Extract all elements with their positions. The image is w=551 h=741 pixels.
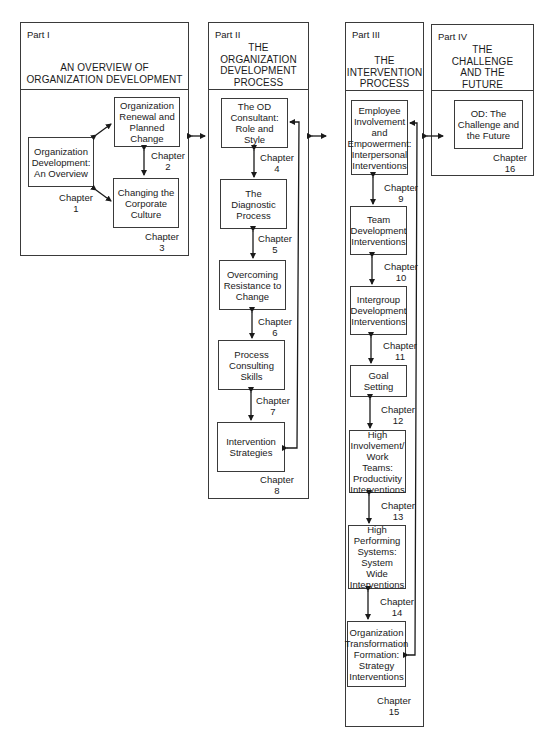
part-4-title-line: CHALLENGE: [432, 56, 533, 68]
chapter-9-label: Chapter 9: [379, 182, 423, 204]
part-4-title-line: AND THE: [432, 67, 533, 79]
chapter-16-box: OD: The Challenge and the Future: [454, 100, 523, 149]
part-1-title-line: ORGANIZATION DEVELOPMENT: [21, 74, 188, 86]
part-3-title-line: THE: [346, 55, 423, 67]
part-3-title-line: PROCESS: [346, 78, 423, 90]
part-3-title: THE INTERVENTION PROCESS: [346, 55, 423, 90]
part-4-title: THE CHALLENGE AND THE FUTURE: [432, 44, 533, 90]
part-4-title-line: THE: [432, 44, 533, 56]
chapter-word: Chapter: [375, 596, 419, 607]
chapter-word: Chapter: [252, 233, 298, 244]
chapter-word: Chapter: [379, 182, 423, 193]
chapter-word: Chapter: [254, 152, 300, 163]
part-2-label: Part II: [215, 29, 240, 40]
chapter-number: 3: [140, 242, 184, 253]
part-3-title-line: INTERVENTION: [346, 67, 423, 79]
part-2-title-line: THE: [209, 42, 308, 54]
chapter-16-label: Chapter 16: [488, 152, 532, 174]
chapter-9-box: Employee Involvement and Empowerment: In…: [351, 100, 408, 175]
chapter-word: Chapter: [254, 474, 300, 485]
chapter-15-box: Organization Transformation Formation: S…: [347, 621, 406, 687]
chapter-6-box: Overcoming Resistance to Change: [219, 260, 286, 310]
chapter-12-label: Chapter 12: [376, 404, 420, 426]
chapter-10-label: Chapter 10: [379, 261, 423, 283]
chapter-number: 14: [375, 607, 419, 618]
part-2-header: Part II THE ORGANIZATION DEVELOPMENT PRO…: [209, 23, 308, 90]
chapter-5-box: The Diagnostic Process: [220, 179, 287, 229]
chapter-12-box: Goal Setting: [350, 365, 407, 397]
chapter-8-box: Intervention Strategies: [217, 422, 285, 472]
chapter-3-label: Chapter 3: [140, 231, 184, 253]
chapter-word: Chapter: [376, 500, 420, 511]
chapter-13-label: Chapter 13: [376, 500, 420, 522]
chapter-7-box: Process Consulting Skills: [218, 340, 285, 390]
chapter-number: 1: [56, 203, 96, 214]
chapter-14-box: High Performing Systems: System Wide Int…: [348, 525, 406, 589]
chapter-word: Chapter: [252, 316, 298, 327]
chapter-13-box: High Involvement/ Work Teams: Productivi…: [349, 430, 406, 493]
chapter-8-label: Chapter 8: [254, 474, 300, 496]
part-2-title-line: DEVELOPMENT: [209, 65, 308, 77]
chapter-6-label: Chapter 6: [252, 316, 298, 338]
chapter-word: Chapter: [379, 261, 423, 272]
chapter-word: Chapter: [250, 395, 296, 406]
chapter-4-box: The OD Consultant: Role and Style: [221, 98, 288, 148]
chapter-14-label: Chapter 14: [375, 596, 419, 618]
chapter-word: Chapter: [378, 340, 422, 351]
chapter-number: 7: [250, 406, 296, 417]
part-1-title: AN OVERVIEW OF ORGANIZATION DEVELOPMENT: [21, 62, 188, 85]
chapter-number: 12: [376, 415, 420, 426]
part-2-title-line: PROCESS: [209, 77, 308, 89]
part-3-header: Part III THE INTERVENTION PROCESS: [346, 23, 423, 91]
chapter-1-label: Chapter 1: [56, 192, 96, 214]
part-4-label: Part IV: [438, 31, 467, 42]
chapter-word: Chapter: [488, 152, 532, 163]
chapter-11-box: Intergroup Development Interventions: [350, 286, 407, 335]
chapter-1-box: Organization Development: An Overview: [28, 137, 94, 187]
chapter-word: Chapter: [148, 150, 188, 161]
chapter-number: 13: [376, 511, 420, 522]
chapter-number: 11: [378, 351, 422, 362]
chapter-4-label: Chapter 4: [254, 152, 300, 174]
chapter-number: 10: [379, 272, 423, 283]
part-4-title-line: FUTURE: [432, 79, 533, 91]
chapter-number: 6: [252, 327, 298, 338]
part-3-label: Part III: [352, 29, 380, 40]
chapter-2-box: Organization Renewal and Planned Change: [114, 97, 180, 147]
chapter-word: Chapter: [140, 231, 184, 242]
part-1-header: Part I AN OVERVIEW OF ORGANIZATION DEVEL…: [21, 23, 188, 90]
chapter-number: 2: [148, 161, 188, 172]
chapter-number: 5: [252, 244, 298, 255]
part-2-title-line: ORGANIZATION: [209, 54, 308, 66]
chapter-number: 15: [372, 706, 416, 717]
chapter-11-label: Chapter 11: [378, 340, 422, 362]
chapter-number: 16: [488, 163, 532, 174]
chapter-word: Chapter: [376, 404, 420, 415]
chapter-5-label: Chapter 5: [252, 233, 298, 255]
chapter-word: Chapter: [56, 192, 96, 203]
part-1-label: Part I: [27, 29, 50, 40]
chapter-2-label: Chapter 2: [148, 150, 188, 172]
chapter-3-box: Changing the Corporate Culture: [113, 178, 179, 228]
chapter-word: Chapter: [372, 695, 416, 706]
part-4-header: Part IV THE CHALLENGE AND THE FUTURE: [432, 25, 533, 91]
chapter-15-label: Chapter 15: [372, 695, 416, 717]
chapter-number: 8: [254, 485, 300, 496]
part-1-title-line: AN OVERVIEW OF: [21, 62, 188, 74]
chapter-7-label: Chapter 7: [250, 395, 296, 417]
chapter-10-box: Team Development Interventions: [350, 206, 407, 255]
chapter-number: 4: [254, 163, 300, 174]
part-2-title: THE ORGANIZATION DEVELOPMENT PROCESS: [209, 42, 308, 88]
chapter-number: 9: [379, 193, 423, 204]
